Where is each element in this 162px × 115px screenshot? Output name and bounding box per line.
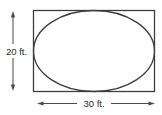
- geometry-figure: 20 ft. 30 ft.: [0, 0, 162, 115]
- height-dimension: 20 ft.: [6, 11, 27, 91]
- inscribed-ellipse: [34, 11, 155, 92]
- width-label: 30 ft.: [83, 98, 104, 109]
- arrowhead-right-icon: [149, 101, 156, 105]
- width-dimension: 30 ft.: [37, 98, 155, 109]
- height-label: 20 ft.: [6, 46, 27, 57]
- arrowhead-left-icon: [37, 101, 44, 105]
- arrowhead-down-icon: [11, 85, 15, 92]
- figure-svg: 20 ft. 30 ft.: [0, 0, 162, 115]
